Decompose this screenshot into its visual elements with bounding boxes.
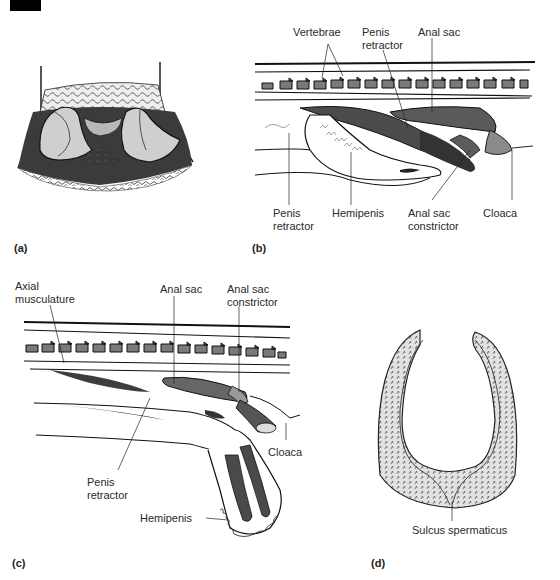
label-anal-sac-c: Anal sac bbox=[160, 283, 202, 296]
label-penis-retractor-c: Penis retractor bbox=[87, 476, 128, 501]
panel-label-b: (b) bbox=[252, 242, 266, 254]
label-axial-musculature: Axial musculature bbox=[15, 280, 75, 305]
label-hemipenis: Hemipenis bbox=[332, 207, 384, 220]
panel-label-c: (c) bbox=[12, 557, 25, 569]
panel-label-d: (d) bbox=[371, 557, 385, 569]
panel-a-drawing bbox=[18, 62, 193, 191]
label-penis-retractor-top: Penis retractor bbox=[362, 26, 403, 51]
panel-label-a: (a) bbox=[14, 242, 27, 254]
label-anal-sac: Anal sac bbox=[418, 26, 460, 39]
label-sulcus-spermaticus: Sulcus spermaticus bbox=[412, 524, 507, 537]
label-anal-sac-constrictor-c: Anal sac constrictor bbox=[227, 283, 278, 308]
label-penis-retractor-bottom: Penis retractor bbox=[273, 207, 314, 232]
label-cloaca-c: Cloaca bbox=[268, 446, 302, 459]
truncated-caption-edge bbox=[0, 574, 560, 580]
panel-d-drawing bbox=[378, 330, 516, 521]
panel-c-drawing bbox=[24, 296, 300, 537]
figure-illustrations bbox=[0, 0, 560, 580]
label-vertebrae: Vertebrae bbox=[293, 26, 341, 39]
label-anal-sac-constrictor: Anal sac constrictor bbox=[408, 207, 459, 232]
label-hemipenis-c: Hemipenis bbox=[140, 512, 192, 525]
label-cloaca: Cloaca bbox=[483, 207, 517, 220]
panel-b-drawing bbox=[255, 38, 535, 205]
